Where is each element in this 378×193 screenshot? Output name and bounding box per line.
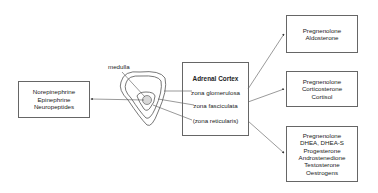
- output-text: Corticosterone: [302, 85, 342, 92]
- output-text: DHEA, DHEA-S: [300, 139, 344, 146]
- adrenal-gland-diagram: [120, 72, 165, 126]
- output-text: Progesterone: [303, 147, 340, 154]
- output-text: Cortisol: [312, 93, 333, 100]
- output-box-reticularis: Pregnenolone DHEA, DHEA-S Progesterone A…: [286, 126, 358, 182]
- zone-glomerulosa: zona glomerulosa: [183, 89, 248, 96]
- output-text: Norepinephrine: [33, 88, 75, 95]
- output-text: Pregnenolone: [303, 27, 342, 34]
- output-box-glomerulosa: Pregnenolone Aldosterone: [286, 15, 358, 53]
- output-text: Androstenedione: [299, 154, 346, 161]
- output-text: Testosterone: [304, 161, 339, 168]
- output-text: Pregnenolone: [303, 132, 342, 139]
- output-box-fasciculata: Pregnenolone Corticosterone Cortisol: [286, 71, 358, 107]
- output-text: Aldosterone: [305, 34, 338, 41]
- output-text: Pregnenolone: [303, 78, 342, 85]
- zone-reticularis: (zona reticularis): [183, 117, 248, 124]
- output-text: Neuropeptides: [34, 103, 74, 110]
- medulla-label: medulla: [108, 63, 130, 70]
- adrenal-cortex-box: Adrenal Cortex zona glomerulosa zona fas…: [182, 62, 249, 136]
- output-text: Oestrogens: [306, 169, 338, 176]
- output-text: Epinephrine: [37, 96, 70, 103]
- medulla-output-box: Norepinephrine Epinephrine Neuropeptides: [18, 81, 90, 118]
- zone-fasciculata: zona fasciculata: [183, 102, 248, 109]
- cortex-title: Adrenal Cortex: [183, 75, 248, 82]
